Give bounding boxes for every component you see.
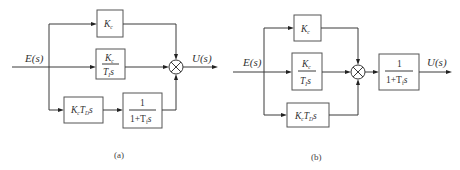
p-to-sum-line <box>321 28 358 61</box>
arrow-icon <box>117 108 123 112</box>
derivative-gain: KcTDs <box>294 111 317 122</box>
diagram-b: E(s) Kc Kc TIs KcTDs <box>233 15 452 162</box>
arrow-icon <box>373 70 379 74</box>
summing-junction-icon <box>351 65 365 79</box>
output-label: U(s) <box>192 52 212 65</box>
filter-numerator: 1 <box>397 59 402 69</box>
filter-to-sum-line <box>162 78 176 110</box>
arrow-icon <box>58 108 64 112</box>
filter-numerator: 1 <box>140 98 145 108</box>
filter-denominator: 1+Tfs <box>386 75 408 86</box>
arrow-icon <box>90 65 96 69</box>
summing-junction-icon <box>169 60 183 74</box>
caption-b: (b) <box>311 152 322 162</box>
arrow-icon <box>345 70 351 74</box>
arrow-icon <box>356 59 360 65</box>
arrow-icon <box>281 113 287 117</box>
arrow-icon <box>163 65 169 69</box>
arrow-icon <box>288 26 294 30</box>
output-label: U(s) <box>427 56 447 69</box>
arrow-icon <box>446 70 452 74</box>
arrow-icon <box>174 54 178 60</box>
arrow-icon <box>174 74 178 80</box>
p-to-sum-line <box>123 24 176 56</box>
derivative-gain: KcTDs <box>70 105 93 116</box>
input-label: E(s) <box>24 52 44 65</box>
arrow-icon <box>212 65 218 69</box>
arrow-icon <box>91 22 97 26</box>
arrow-icon <box>286 70 292 74</box>
diagram-a: E(s) Kc Kc TIs KcTDs 1 1+Tfs <box>12 10 218 160</box>
caption-a: (a) <box>114 150 124 160</box>
arrow-icon <box>356 79 360 85</box>
d-to-sum-line <box>329 83 358 115</box>
proportional-block <box>294 15 321 41</box>
pid-block-diagrams: E(s) Kc Kc TIs KcTDs 1 1+Tfs <box>0 0 460 170</box>
filter-denominator: 1+Tfs <box>130 114 152 125</box>
input-label: E(s) <box>242 56 262 69</box>
